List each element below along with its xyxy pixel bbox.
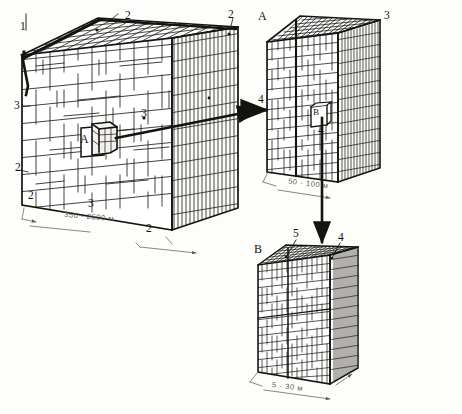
callout-2-bottom-left: 2 — [28, 190, 34, 202]
callout-2-bottom-right: 2 — [146, 223, 152, 235]
inset-label-B-on-medium-block: B — [313, 108, 319, 117]
callout-2-top-right: 2 — [228, 9, 234, 21]
callout-3-medium-block: 3 — [384, 10, 390, 22]
technical-drawing — [0, 0, 462, 414]
callout-3-front-face: 3 — [141, 108, 147, 120]
callout-4-small-block: 4 — [338, 232, 344, 244]
callout-1-large-block: 1 — [20, 21, 26, 33]
inset-label-A-on-large-block: A — [80, 133, 89, 145]
callout-2-left-lower: 2 — [15, 162, 21, 174]
callout-5-small-block: 5 — [293, 228, 299, 240]
callout-B-small-block: B — [254, 243, 262, 255]
callout-2-top-left: 2 — [125, 10, 131, 22]
callout-A-medium-block: A — [258, 10, 267, 22]
callout-4-medium-inner: 4 — [318, 125, 324, 137]
callout-3-bottom-edge: 3 — [88, 198, 94, 210]
figure-canvas: 1 2 2 3 2 2 3 3 2 A 350 - 2500 м A 3 4 4… — [0, 0, 462, 414]
callout-4-medium-left: 4 — [258, 94, 264, 106]
callout-3-left-edge: 3 — [14, 100, 20, 112]
